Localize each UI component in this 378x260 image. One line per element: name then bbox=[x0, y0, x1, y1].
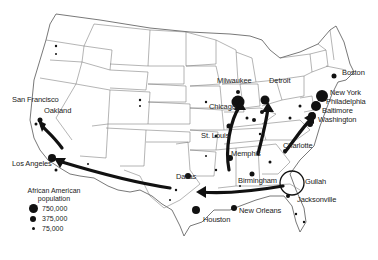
legend-item-small: 75,000 bbox=[24, 224, 84, 233]
city-label-dallas: Dallas bbox=[176, 173, 196, 181]
city-label-gullah: Gullah bbox=[305, 178, 326, 186]
city-label-jacksonville: Jacksonville bbox=[297, 196, 336, 204]
city-label-st-louis: St. Louis bbox=[201, 132, 229, 140]
city-label-charlotte: Charlotte bbox=[283, 142, 313, 150]
legend-title-line1: African American bbox=[24, 187, 84, 195]
city-label-detroit: Detroit bbox=[269, 77, 290, 85]
city-label-washington: Washington bbox=[318, 116, 356, 124]
city-label-baltimore: Baltimore bbox=[322, 107, 353, 115]
gullah-region-circle bbox=[280, 171, 304, 195]
small-dot-icon bbox=[32, 227, 35, 230]
legend-item-large: 750,000 bbox=[24, 204, 84, 213]
medium-dot-icon bbox=[30, 216, 36, 222]
city-label-new-york: New York bbox=[330, 89, 361, 97]
legend-label-375000: 375,000 bbox=[42, 215, 67, 222]
city-label-chicago: Chicago bbox=[209, 103, 236, 111]
city-label-oakland: Oakland bbox=[44, 107, 71, 115]
map-legend: African American population 750,000 375,… bbox=[24, 187, 84, 233]
city-label-philadelphia: Philadelphia bbox=[326, 98, 366, 106]
legend-label-750000: 750,000 bbox=[42, 205, 67, 212]
city-label-birmingham: Birmingham bbox=[238, 177, 277, 185]
city-label-boston: Boston bbox=[342, 69, 365, 77]
city-label-milwaukee: Milwaukee bbox=[217, 77, 252, 85]
legend-title-line2: population bbox=[24, 195, 84, 203]
city-label-memphis: Memphis bbox=[231, 150, 261, 158]
city-label-houston: Houston bbox=[203, 216, 230, 224]
city-label-san-francisco: San Francisco bbox=[12, 96, 59, 104]
city-label-los-angeles: Los Angeles bbox=[12, 160, 52, 168]
large-dot-icon bbox=[29, 204, 38, 213]
legend-title: African American population bbox=[24, 187, 84, 203]
legend-item-medium: 375,000 bbox=[24, 214, 84, 223]
city-label-new-orleans: New Orleans bbox=[239, 207, 281, 215]
legend-label-75000: 75,000 bbox=[42, 225, 63, 232]
